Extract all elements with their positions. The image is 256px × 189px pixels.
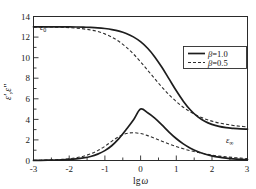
x-axis-title-lg: lg: [133, 176, 141, 186]
legend-beta-value-2: =0.5: [212, 58, 227, 68]
y-axis-title: ε′,ε″: [3, 83, 13, 100]
epsilon-infinity-subscript: ∞: [229, 140, 233, 146]
svg-text:ε0: ε0: [40, 22, 46, 33]
curve-eps-doubleprime-beta-1-0: [34, 109, 248, 161]
y-tick-label: 4: [26, 115, 31, 125]
legend[interactable]: β=1.0 β=0.5: [184, 47, 247, 69]
y-tick-label: 6: [26, 94, 31, 104]
x-tick-label: 1: [174, 164, 179, 174]
x-tick-label: -3: [30, 164, 38, 174]
y-tick-label: 2: [26, 135, 31, 145]
x-axis-title: lgω: [133, 176, 148, 186]
curve-eps-prime-beta-1-0: [34, 27, 248, 129]
x-tick-label: 2: [210, 164, 215, 174]
legend-entry-beta-0-5: β=0.5: [207, 58, 228, 68]
x-tick-label: -2: [65, 164, 73, 174]
x-axis-title-omega: ω: [141, 176, 148, 186]
annotation-epsilon-zero: ε0: [40, 22, 46, 33]
x-tick-label: 3: [245, 164, 250, 174]
x-tick-labels: -3 -2 -1 0 1 2 3: [30, 164, 250, 174]
annotation-epsilon-infinity: ε∞: [226, 135, 234, 146]
chart-canvas: 0 2 4 6 8 10 12 14 -3 -: [0, 0, 256, 189]
y-tick-label: 10: [21, 53, 31, 63]
y-tick-label: 12: [21, 32, 30, 42]
y-tick-label: 14: [21, 12, 31, 22]
plot-frame: [34, 17, 248, 161]
y-axis-ticks: [34, 17, 39, 161]
x-tick-label: 0: [138, 164, 143, 174]
epsilon-zero-subscript: 0: [43, 27, 46, 33]
x-tick-label: -1: [101, 164, 109, 174]
y-tick-label: 8: [26, 73, 31, 83]
svg-text:ε∞: ε∞: [226, 135, 234, 146]
dielectric-relaxation-figure: 0 2 4 6 8 10 12 14 -3 -: [0, 0, 256, 189]
y-tick-labels: 0 2 4 6 8 10 12 14: [21, 12, 31, 166]
